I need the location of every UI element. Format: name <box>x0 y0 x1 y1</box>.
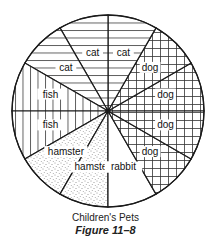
pie-slices <box>12 15 204 207</box>
slice-label-dog: dog <box>157 89 174 100</box>
slice-label-hamster: hamster <box>48 146 85 157</box>
figure-label: Figure 11–8 <box>0 224 211 236</box>
slice-label-dog: dog <box>142 146 159 157</box>
slice-label-cat: cat <box>117 47 131 58</box>
slice-label-fish: fish <box>43 119 59 130</box>
slice-label-cat: cat <box>59 62 73 73</box>
chart-title: Children's Pets <box>0 212 211 223</box>
slice-label-dog: dog <box>142 62 159 73</box>
slice-label-rabbit: rabbit <box>111 161 136 172</box>
slice-label-fish: fish <box>43 89 59 100</box>
pie-chart: dogdogcatcatcatfishfishhamsterhamsterrab… <box>0 0 211 210</box>
slice-label-cat: cat <box>86 47 100 58</box>
slice-label-dog: dog <box>157 119 174 130</box>
